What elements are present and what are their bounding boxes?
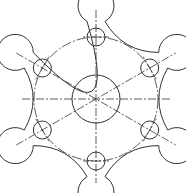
- center-lines: [16, 10, 175, 183]
- flange-drawing: [0, 0, 186, 193]
